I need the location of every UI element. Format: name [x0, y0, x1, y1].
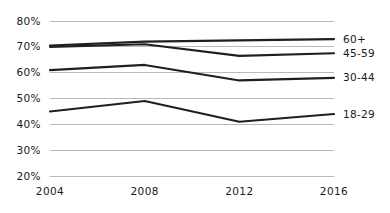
y-axis-tick-label: 70%	[16, 40, 41, 52]
series-end-labels: 60+45-5930-4418-29	[343, 33, 375, 120]
series-line-45-59	[50, 44, 334, 56]
x-axis-tick-label: 2012	[225, 185, 253, 197]
series-label-60: 60+	[343, 33, 366, 45]
y-axis-tick-label: 30%	[16, 144, 41, 156]
series-label-45-59: 45-59	[343, 47, 375, 59]
series-line-60	[50, 39, 334, 45]
series-line-18-29	[50, 101, 334, 122]
x-axis-tick-label: 2008	[131, 185, 159, 197]
line-chart: 20%30%40%50%60%70%80% 2004200820122016 6…	[0, 0, 390, 213]
y-axis-tick-labels: 20%30%40%50%60%70%80%	[16, 15, 41, 182]
y-axis-tick-label: 80%	[16, 15, 41, 27]
x-axis-tick-label: 2016	[320, 185, 348, 197]
series-label-18-29: 18-29	[343, 108, 375, 120]
series-label-30-44: 30-44	[343, 71, 375, 83]
series-lines	[50, 39, 334, 122]
x-axis-tick-label: 2004	[36, 185, 64, 197]
y-axis-tick-label: 60%	[16, 66, 41, 78]
x-axis-tick-labels: 2004200820122016	[36, 185, 348, 197]
y-axis-tick-label: 50%	[16, 92, 41, 104]
y-axis-tick-label: 40%	[16, 118, 41, 130]
chart-canvas: 20%30%40%50%60%70%80% 2004200820122016 6…	[0, 0, 390, 213]
y-axis-tick-label: 20%	[16, 170, 41, 182]
